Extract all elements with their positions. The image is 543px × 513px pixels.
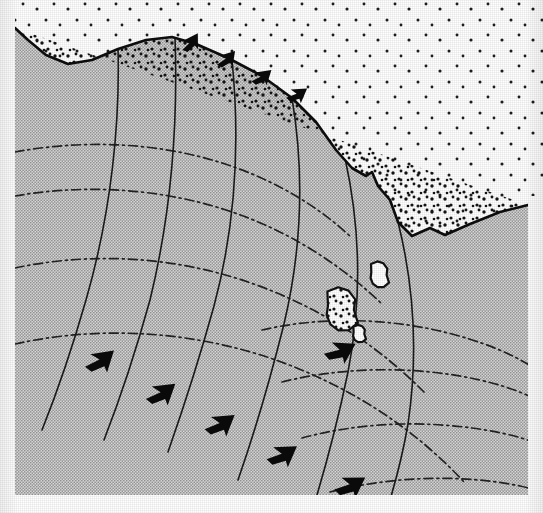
- island-3: [353, 325, 366, 342]
- island-outline: [353, 325, 366, 342]
- wave-refraction-figure: [0, 0, 543, 513]
- map-canvas: [0, 0, 543, 513]
